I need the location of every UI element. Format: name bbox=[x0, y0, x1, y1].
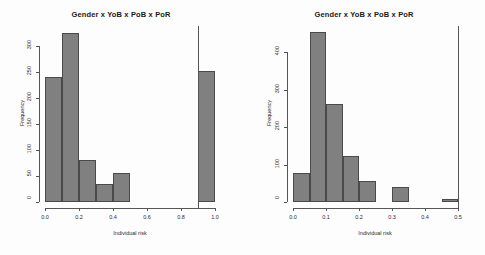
y-axis-line bbox=[287, 52, 288, 202]
x-axis-tick-label: 0.2 bbox=[75, 214, 83, 220]
y-axis-tick-label: 0 bbox=[26, 196, 32, 208]
x-axis-tick-label: 0.4 bbox=[109, 214, 117, 220]
histogram-bar bbox=[113, 173, 130, 202]
x-axis-tick bbox=[293, 208, 294, 211]
x-axis-tick bbox=[425, 208, 426, 211]
reference-line bbox=[198, 26, 199, 208]
y-axis-tick-label: 100 bbox=[26, 144, 32, 156]
x-axis-tick-label: 0.1 bbox=[322, 214, 330, 220]
y-axis-tick bbox=[284, 90, 287, 91]
bars-container-right bbox=[293, 30, 458, 202]
y-axis-tick-label: 150 bbox=[26, 118, 32, 130]
y-axis-tick bbox=[36, 150, 39, 151]
bars-container-left bbox=[45, 30, 215, 202]
x-axis-tick bbox=[458, 208, 459, 211]
y-axis-tick-label: 400 bbox=[274, 46, 280, 58]
chart-panel-left: Gender x YoB x PoB x PoR 0.00.20.40.60.8… bbox=[0, 0, 242, 255]
x-axis-line bbox=[45, 208, 215, 209]
y-axis-line bbox=[39, 46, 40, 202]
y-axis-title-left: Frequency bbox=[19, 93, 25, 133]
x-axis-title-left: Individual risk bbox=[113, 230, 146, 236]
y-axis-tick bbox=[284, 165, 287, 166]
histogram-bar bbox=[198, 71, 215, 202]
x-axis-tick bbox=[147, 208, 148, 211]
x-axis-tick-label: 0.3 bbox=[388, 214, 396, 220]
y-axis-tick bbox=[36, 124, 39, 125]
histogram-bar bbox=[343, 156, 360, 202]
x-axis-title-right: Individual risk bbox=[358, 230, 391, 236]
x-axis-tick-label: 0.8 bbox=[177, 214, 185, 220]
y-axis-tick bbox=[284, 202, 287, 203]
histogram-bar bbox=[79, 160, 96, 202]
chart-title-right: Gender x YoB x PoB x PoR bbox=[243, 10, 485, 19]
x-axis-tick-label: 0.2 bbox=[355, 214, 363, 220]
x-axis-tick-label: 0.4 bbox=[421, 214, 429, 220]
histogram-figure: Gender x YoB x PoB x PoR 0.00.20.40.60.8… bbox=[0, 0, 485, 255]
x-axis-tick-label: 0.5 bbox=[454, 214, 462, 220]
reference-line bbox=[458, 26, 459, 208]
x-axis-tick bbox=[113, 208, 114, 211]
y-axis-tick-label: 300 bbox=[26, 40, 32, 52]
x-axis-tick bbox=[326, 208, 327, 211]
x-axis-tick bbox=[359, 208, 360, 211]
histogram-bar bbox=[442, 199, 459, 202]
y-axis-tick-label: 200 bbox=[274, 121, 280, 133]
y-axis-tick bbox=[36, 176, 39, 177]
histogram-bar bbox=[359, 181, 376, 202]
x-axis-tick-label: 0.0 bbox=[289, 214, 297, 220]
chart-panel-right: Gender x YoB x PoB x PoR 0.00.10.20.30.4… bbox=[243, 0, 485, 255]
histogram-bar bbox=[45, 77, 62, 202]
histogram-bar bbox=[310, 32, 327, 202]
y-axis-tick-label: 50 bbox=[26, 170, 32, 182]
y-axis-tick bbox=[284, 127, 287, 128]
x-axis-line bbox=[293, 208, 458, 209]
x-axis-tick bbox=[392, 208, 393, 211]
x-axis-tick bbox=[79, 208, 80, 211]
y-axis-tick bbox=[36, 72, 39, 73]
x-axis-tick bbox=[181, 208, 182, 211]
plot-area-left bbox=[45, 30, 215, 202]
chart-title-left: Gender x YoB x PoB x PoR bbox=[0, 10, 242, 19]
x-axis-tick-label: 1.0 bbox=[211, 214, 219, 220]
y-axis-tick-label: 200 bbox=[26, 92, 32, 104]
y-axis-tick bbox=[284, 52, 287, 53]
y-axis-title-right: Frequency bbox=[266, 93, 272, 133]
y-axis-tick-label: 100 bbox=[274, 159, 280, 171]
y-axis-tick bbox=[36, 46, 39, 47]
histogram-bar bbox=[96, 184, 113, 202]
histogram-bar bbox=[392, 187, 409, 202]
x-axis-tick-label: 0.6 bbox=[143, 214, 151, 220]
histogram-bar bbox=[326, 104, 343, 202]
y-axis-tick-label: 250 bbox=[26, 66, 32, 78]
x-axis-tick bbox=[45, 208, 46, 211]
histogram-bar bbox=[62, 33, 79, 202]
x-axis-tick-label: 0.0 bbox=[41, 214, 49, 220]
x-axis-tick bbox=[215, 208, 216, 211]
plot-area-right bbox=[293, 30, 458, 202]
y-axis-tick bbox=[36, 202, 39, 203]
y-axis-tick-label: 300 bbox=[274, 84, 280, 96]
y-axis-tick-label: 0 bbox=[274, 196, 280, 208]
y-axis-tick bbox=[36, 98, 39, 99]
histogram-bar bbox=[293, 173, 310, 202]
